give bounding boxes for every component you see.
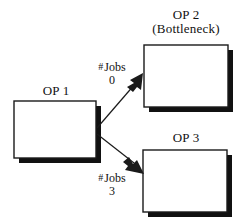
edge-label-op1-to-op3-count: 3 bbox=[85, 185, 139, 199]
op3-box[interactable] bbox=[143, 150, 227, 212]
edge-label-op1-to-op3-text: Jobs bbox=[104, 171, 125, 185]
edge-op1-to-op2-line bbox=[97, 84, 135, 128]
node-label-op3-text: OP 3 bbox=[173, 130, 200, 145]
node-label-op1: OP 1 bbox=[20, 84, 92, 98]
edge-label-op1-to-op2: #Jobs 0 bbox=[86, 61, 138, 88]
node-label-op2-text: OP 2 bbox=[173, 7, 200, 22]
node-label-op2-sublabel: (Bottleneck) bbox=[152, 21, 219, 36]
op2-box[interactable] bbox=[144, 45, 228, 107]
edge-label-op1-to-op2-count: 0 bbox=[86, 74, 138, 88]
edge-op1-to-op3 bbox=[97, 134, 144, 174]
node-label-op2: OP 2 (Bottleneck) bbox=[140, 8, 232, 36]
node-label-op1-text: OP 1 bbox=[43, 83, 70, 98]
flow-diagram: OP 1 OP 2 (Bottleneck) OP 3 #Jobs 0 #Job… bbox=[0, 0, 239, 224]
node-label-op3: OP 3 bbox=[148, 131, 224, 145]
edge-label-op1-to-op3: #Jobs 3 bbox=[85, 172, 139, 199]
edge-label-op1-to-op2-text: Jobs bbox=[104, 60, 125, 74]
op1-box[interactable] bbox=[14, 101, 96, 158]
